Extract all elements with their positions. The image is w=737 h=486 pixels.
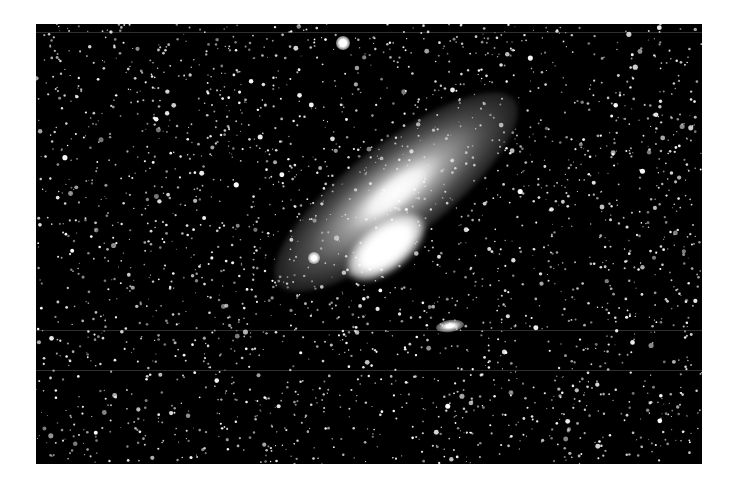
satellite-galaxy-m32 bbox=[308, 252, 320, 264]
scan-line-artifact bbox=[36, 330, 702, 331]
scan-line-artifact bbox=[36, 370, 702, 371]
bright-star bbox=[336, 36, 350, 50]
scan-line-artifact bbox=[36, 32, 702, 33]
astrophotograph bbox=[36, 24, 702, 464]
